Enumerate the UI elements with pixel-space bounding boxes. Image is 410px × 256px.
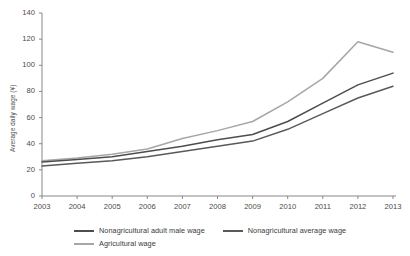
series-line: [42, 73, 393, 162]
legend-label: Agricultural wage: [99, 239, 156, 248]
series-line: [42, 86, 393, 166]
legend-item-nonagricultural-average-wage: Nonagricultural average wage: [223, 226, 346, 235]
series-line: [42, 42, 393, 161]
line-chart-figure: Average daily wage (¥) 02040608010012014…: [0, 0, 410, 256]
legend-swatch-icon: [223, 230, 243, 232]
series-lines: [42, 42, 393, 166]
legend-swatch-icon: [74, 243, 94, 245]
legend-label: Nonagricultural average wage: [248, 226, 346, 235]
legend-swatch-icon: [74, 230, 94, 232]
legend-item-agricultural-wage: Agricultural wage: [74, 239, 156, 248]
legend-item-nonagricultural-adult-male-wage: Nonagricultural adult male wage: [74, 226, 205, 235]
legend-row-1: Nonagricultural adult male wage Nonagric…: [74, 224, 404, 237]
legend-label: Nonagricultural adult male wage: [99, 226, 205, 235]
chart-legend: Nonagricultural adult male wage Nonagric…: [74, 224, 404, 250]
plot-area: [0, 0, 410, 256]
legend-row-2: Agricultural wage: [74, 237, 404, 250]
